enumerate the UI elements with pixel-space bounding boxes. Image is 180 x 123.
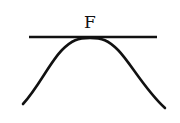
force-label: F xyxy=(84,12,96,32)
bell-curve xyxy=(23,38,165,108)
diagram-canvas: F xyxy=(0,0,180,123)
